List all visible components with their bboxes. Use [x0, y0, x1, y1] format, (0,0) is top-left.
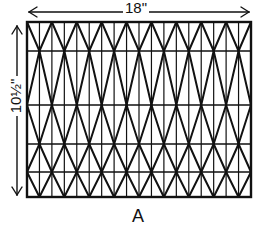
- diagonal-line: [214, 105, 226, 144]
- diagonal-line: [114, 144, 126, 172]
- diagonal-line: [89, 51, 101, 105]
- diagonal-line: [226, 172, 238, 197]
- diagonal-line: [201, 105, 213, 144]
- diagonal-line: [114, 105, 126, 144]
- diagonal-line: [239, 172, 251, 197]
- diagonal-line: [52, 51, 64, 105]
- diagonal-line: [27, 105, 39, 144]
- diagonal-line: [64, 172, 76, 197]
- diagonal-line: [151, 22, 163, 51]
- diagonal-line: [127, 22, 139, 51]
- diagonal-line: [102, 51, 114, 105]
- diagonal-line: [77, 105, 89, 144]
- diagonal-line: [164, 51, 176, 105]
- arrowhead-down-icon: [17, 187, 22, 195]
- diagonal-line: [127, 105, 139, 144]
- diagonal-line: [189, 172, 201, 197]
- arrowhead-right-icon: [241, 12, 249, 17]
- diagonal-line: [64, 51, 76, 105]
- width-dimension-label: 18": [123, 0, 149, 16]
- diagonal-line: [201, 22, 213, 51]
- diagonal-line: [89, 22, 101, 51]
- diagonal-line: [189, 105, 201, 144]
- height-dimension-label: 10½": [8, 76, 24, 116]
- diagonal-line: [226, 105, 238, 144]
- diagonal-line: [127, 51, 139, 105]
- diagonal-line: [127, 172, 139, 197]
- diagonal-line: [164, 22, 176, 51]
- diagonal-line: [39, 105, 51, 144]
- diagonal-line: [39, 51, 51, 105]
- diagonal-line: [239, 105, 251, 144]
- diagonal-line: [176, 51, 188, 105]
- arrowhead-down-icon: [12, 187, 17, 195]
- diagonal-line: [201, 144, 213, 172]
- diagonal-line: [114, 172, 126, 197]
- diagonal-line: [77, 51, 89, 105]
- diagonal-line: [52, 172, 64, 197]
- diagonal-line: [151, 51, 163, 105]
- diagonal-line: [64, 144, 76, 172]
- diagonal-line: [102, 172, 114, 197]
- diagonal-line: [239, 144, 251, 172]
- diagonal-line: [127, 144, 139, 172]
- arrowhead-up-icon: [17, 26, 22, 34]
- diagonal-line: [151, 144, 163, 172]
- diagonal-line: [201, 172, 213, 197]
- diagonal-line: [176, 172, 188, 197]
- diagonal-line: [139, 144, 151, 172]
- diagonal-line: [27, 172, 39, 197]
- diagonal-line: [151, 172, 163, 197]
- diagonal-line: [52, 22, 64, 51]
- diagonal-line: [189, 144, 201, 172]
- diagonal-line: [27, 51, 39, 105]
- diagonal-line: [139, 172, 151, 197]
- diagonal-line: [39, 172, 51, 197]
- arrowhead-up-icon: [12, 26, 17, 34]
- pattern-diagram: [0, 0, 256, 232]
- figure-label: A: [132, 206, 144, 227]
- diagonal-line: [39, 22, 51, 51]
- diagonal-line: [64, 22, 76, 51]
- diagonal-line: [226, 51, 238, 105]
- diagonal-line: [114, 22, 126, 51]
- diagonal-line: [214, 51, 226, 105]
- diagonal-line: [151, 105, 163, 144]
- diagonal-line: [201, 51, 213, 105]
- diagonal-line: [239, 51, 251, 105]
- diagonal-line: [189, 51, 201, 105]
- diagonal-line: [176, 144, 188, 172]
- diagonal-line: [114, 51, 126, 105]
- diagonal-line: [226, 144, 238, 172]
- diagonal-line: [214, 22, 226, 51]
- diagonal-line: [77, 144, 89, 172]
- diagonal-line: [102, 22, 114, 51]
- arrowhead-left-icon: [29, 12, 37, 17]
- arrowhead-left-icon: [29, 7, 37, 12]
- diagonal-line: [102, 105, 114, 144]
- diagonal-line: [189, 22, 201, 51]
- diagonal-line: [164, 105, 176, 144]
- diagonal-line: [139, 22, 151, 51]
- diagonal-line: [226, 22, 238, 51]
- diagonal-line: [214, 172, 226, 197]
- diagonal-line: [52, 144, 64, 172]
- arrowhead-right-icon: [241, 7, 249, 12]
- diagonal-line: [102, 144, 114, 172]
- diagonal-line: [164, 172, 176, 197]
- diagonal-line: [64, 105, 76, 144]
- diagonal-line: [239, 22, 251, 51]
- diagonal-line: [139, 51, 151, 105]
- diagonal-line: [164, 144, 176, 172]
- diagonal-line: [39, 144, 51, 172]
- diagonal-line: [77, 172, 89, 197]
- diagonal-line: [77, 22, 89, 51]
- diagonal-line: [214, 144, 226, 172]
- diagonal-line: [89, 105, 101, 144]
- diagonal-line: [139, 105, 151, 144]
- diagonal-line: [176, 22, 188, 51]
- diagonal-line: [27, 22, 39, 51]
- diagonal-line: [27, 144, 39, 172]
- diagonal-line: [89, 144, 101, 172]
- diagonal-line: [89, 172, 101, 197]
